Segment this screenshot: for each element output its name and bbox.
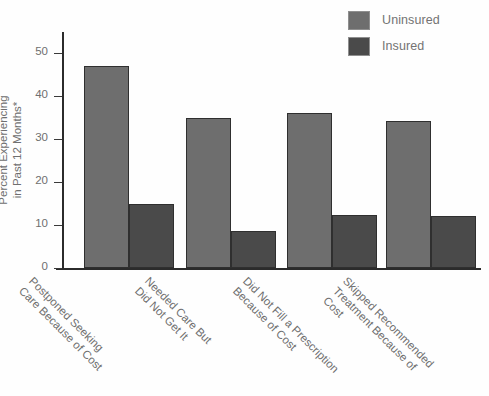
y-tick-label: 30 [35, 131, 48, 143]
y-tick-label: 0 [42, 260, 48, 272]
bar-uninsured-3 [287, 113, 332, 268]
y-tick-label: 40 [35, 88, 48, 100]
plot-area: 01020304050 Percent Experiencing in Past… [62, 32, 479, 268]
x-category-label-2: Needed Care But Did Not Get It [132, 274, 215, 357]
x-category-label-1: Postponed Seeking Care Because of Cost [16, 274, 115, 373]
bar-series-container [64, 32, 479, 268]
y-tick-0: 0 [54, 268, 62, 269]
bar-insured-1 [129, 204, 174, 268]
y-tick-30: 30 [54, 139, 62, 140]
legend-item-uninsured: Uninsured [348, 8, 488, 32]
legend-label-uninsured: Uninsured [382, 13, 440, 27]
bar-insured-2 [231, 231, 276, 268]
y-tick-10: 10 [54, 225, 62, 226]
legend-swatch-uninsured [348, 11, 370, 30]
bar-uninsured-1 [84, 66, 129, 268]
bar-insured-3 [332, 215, 377, 268]
x-axis-line [56, 268, 481, 270]
y-tick-label: 50 [35, 45, 48, 57]
y-tick-label: 20 [35, 174, 48, 186]
y-tick-20: 20 [54, 182, 62, 183]
y-tick-40: 40 [54, 96, 62, 97]
y-tick-label: 10 [35, 217, 48, 229]
bar-uninsured-2 [186, 118, 231, 268]
bar-insured-4 [431, 216, 476, 268]
bar-chart: Uninsured Insured 01020304050 Percent Ex… [0, 0, 489, 396]
y-tick-50: 50 [54, 53, 62, 54]
y-axis-title: Percent Experiencing in Past 12 Months* [0, 55, 24, 245]
x-category-label-3: Did Not Fill a Prescription Because of C… [230, 274, 342, 386]
bar-uninsured-4 [386, 121, 431, 268]
x-category-label-4: Skipped Recommended Treatment Because of… [320, 274, 448, 396]
